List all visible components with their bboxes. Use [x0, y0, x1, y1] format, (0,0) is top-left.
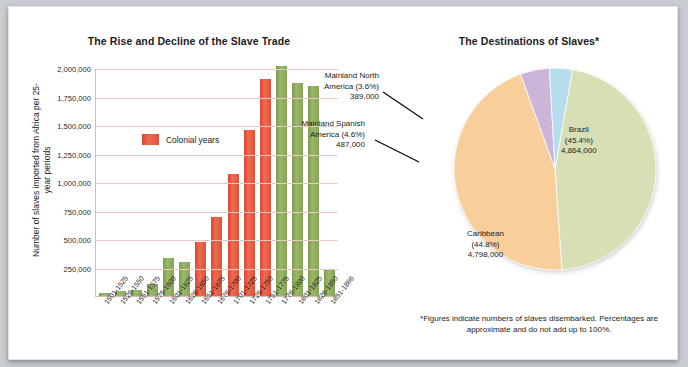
bar-plot-area: 250,000500,000750,0001,000,0001,250,0001…: [95, 69, 337, 297]
legend-swatch-colonial: [142, 134, 159, 145]
pie-label-carib-line2: (44.8%): [467, 240, 504, 251]
y-axis-tick-label: 1,000,000: [57, 179, 91, 188]
pie-label-brazil: Brazil (45.4%) 4,864,000: [561, 125, 597, 157]
y-axis-tick-label: 750,000: [64, 207, 91, 216]
bar: [260, 79, 271, 296]
pie-label-brazil-line2: (45.4%): [561, 136, 597, 147]
pie-label-msa-line2: America (4.6%): [301, 130, 365, 141]
pie-label-msa-value: 487,000: [301, 140, 365, 151]
bar: [308, 86, 319, 296]
pie-slice: [555, 70, 656, 270]
y-axis-tick-label: 1,500,000: [57, 122, 91, 131]
bar: [276, 66, 287, 296]
gridline: [96, 212, 338, 213]
legend-label-colonial: Colonial years: [166, 135, 219, 145]
pie-footnote: *Figures indicate numbers of slaves dise…: [403, 313, 675, 335]
pie-label-caribbean: Caribbean (44.8%) 4,798,000: [467, 229, 504, 261]
pie-label-na-line1: Mainland North: [324, 71, 379, 82]
pie-chart-title: The Destinations of Slaves*: [371, 35, 678, 47]
gridline: [96, 183, 338, 184]
y-axis-title: Number of slaves imported from Africa pe…: [31, 75, 53, 265]
pie-label-carib-value: 4,798,000: [467, 250, 504, 261]
pie-label-na-value: 389,000: [324, 92, 379, 103]
y-axis-tick-label: 500,000: [64, 236, 91, 245]
y-axis-tick-label: 1,250,000: [57, 150, 91, 159]
x-axis-labels: 1501-15251526-15501551-15751576-16001601…: [96, 299, 338, 355]
pie-label-na-line2: America (3.6%): [324, 82, 379, 93]
bar-chart-panel: The Rise and Decline of the Slave Trade …: [9, 7, 361, 359]
figure-container: The Rise and Decline of the Slave Trade …: [8, 6, 678, 360]
bar: [292, 83, 303, 296]
pie-label-carib-line1: Caribbean: [467, 229, 504, 240]
pie-chart-panel: The Destinations of Slaves* Mainland Nor…: [361, 7, 678, 359]
y-axis-tick-label: 1,750,000: [57, 93, 91, 102]
gridline: [96, 155, 338, 156]
gridline: [96, 240, 338, 241]
chart-legend: Colonial years: [142, 134, 219, 145]
gridline: [96, 69, 338, 70]
pie-label-msa-line1: Mainland Spanish: [301, 119, 365, 130]
pie-label-spanish-america: Mainland Spanish America (4.6%) 487,000: [301, 119, 365, 151]
y-axis-tick-label: 250,000: [64, 264, 91, 273]
gridline: [96, 269, 338, 270]
pie-label-north-america: Mainland North America (3.6%) 389,000: [324, 71, 379, 103]
bar-chart-title: The Rise and Decline of the Slave Trade: [29, 35, 349, 47]
pie-label-brazil-value: 4,864,000: [561, 146, 597, 157]
y-axis-tick-label: 2,000,000: [57, 65, 91, 74]
gridline: [96, 98, 338, 99]
pie-label-brazil-line1: Brazil: [561, 125, 597, 136]
